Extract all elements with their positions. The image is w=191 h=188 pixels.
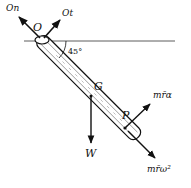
pivot-icon [35,36,49,44]
label-normal-force: mr̄ω² [147,165,171,174]
label-Ot: Ot [62,9,73,18]
label-On: On [6,4,19,13]
normal-force-arrow-icon [128,131,155,158]
label-P: P [122,110,129,121]
label-G: G [94,81,103,92]
free-body-diagram: On Ot O 45° G P W mr̄α mr̄ω² [0,0,191,188]
label-tangential-force: mr̄α [153,91,172,100]
label-angle: 45° [68,48,82,56]
Ot-arrow-icon [44,20,60,38]
label-W: W [85,148,96,159]
label-O: O [33,22,42,33]
